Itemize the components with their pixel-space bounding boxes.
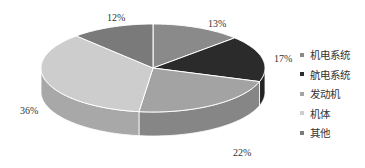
pie-data-label: 13% [208,18,226,29]
legend-label: 机电系统 [310,47,350,62]
legend-swatch-icon [300,53,304,57]
legend-swatch-icon [300,111,304,115]
legend-item: 机体 [300,104,350,124]
pie-slices [41,24,265,112]
legend-item: 其他 [300,123,350,143]
pie-data-label: 22% [233,147,251,158]
legend-swatch-icon [300,72,304,76]
legend-label: 机体 [310,106,330,121]
legend-item: 机电系统 [300,45,350,65]
legend: 机电系统 航电系统 发动机 机体 其他 [300,45,350,143]
pie-data-label: 12% [107,12,125,23]
legend-item: 航电系统 [300,65,350,85]
pie-data-label: 17% [274,53,292,64]
legend-swatch-icon [300,131,304,135]
pie-data-label: 36% [20,105,38,116]
legend-label: 发动机 [310,86,340,101]
legend-item: 发动机 [300,84,350,104]
legend-swatch-icon [300,92,304,96]
legend-label: 其他 [310,125,330,140]
legend-label: 航电系统 [310,67,350,82]
